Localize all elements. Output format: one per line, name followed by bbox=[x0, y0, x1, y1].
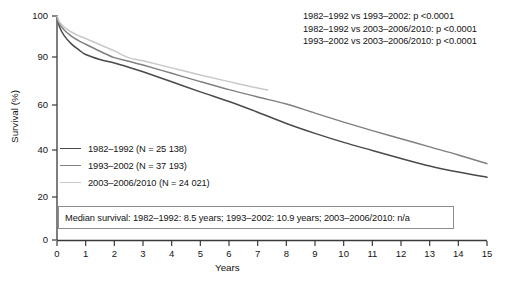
x-tick-label: 5 bbox=[190, 248, 210, 259]
y-tick-label: 90 bbox=[18, 51, 48, 62]
x-tick-label: 4 bbox=[162, 248, 182, 259]
p-value-annotations: 1982–1992 vs 1993–2002: p <0.0001 1982–1… bbox=[303, 10, 477, 48]
x-tick-label: 1 bbox=[76, 248, 96, 259]
y-tick-label: 20 bbox=[18, 191, 48, 202]
x-tick-label: 8 bbox=[276, 248, 296, 259]
x-tick-label: 7 bbox=[248, 248, 268, 259]
x-tick-label: 12 bbox=[391, 248, 411, 259]
legend-swatch-2003-2010 bbox=[60, 182, 81, 183]
x-tick-label: 11 bbox=[362, 248, 382, 259]
x-axis-label: Years bbox=[215, 262, 240, 273]
legend-label: 2003–2006/2010 (N = 24 021) bbox=[88, 178, 210, 188]
y-tick-label: 40 bbox=[18, 144, 48, 155]
x-tick-label: 13 bbox=[420, 248, 440, 259]
y-tick-label: 100 bbox=[18, 10, 48, 21]
y-tick-marks bbox=[52, 16, 57, 240]
chart-legend: 1982–1992 (N = 25 138) 1993–2002 (N = 37… bbox=[60, 140, 210, 191]
legend-label: 1982–1992 (N = 25 138) bbox=[88, 144, 187, 154]
median-survival-text: Median survival: 1982–1992: 8.5 years; 1… bbox=[59, 213, 410, 223]
legend-item: 1993–2002 (N = 37 193) bbox=[60, 157, 210, 174]
legend-item: 2003–2006/2010 (N = 24 021) bbox=[60, 174, 210, 191]
x-tick-label: 3 bbox=[133, 248, 153, 259]
p-value-line: 1982–1992 vs 1993–2002: p <0.0001 bbox=[303, 10, 477, 23]
legend-item: 1982–1992 (N = 25 138) bbox=[60, 140, 210, 157]
p-value-line: 1993–2002 vs 2003–2006/2010: p <0.0001 bbox=[303, 35, 477, 48]
x-tick-label: 6 bbox=[219, 248, 239, 259]
x-tick-label: 14 bbox=[448, 248, 468, 259]
y-tick-label: 0 bbox=[18, 234, 48, 245]
x-tick-label: 0 bbox=[47, 248, 67, 259]
x-tick-marks bbox=[57, 241, 487, 246]
y-tick-label: 60 bbox=[18, 99, 48, 110]
p-value-line: 1982–1992 vs 2003–2006/2010: p <0.0001 bbox=[303, 23, 477, 36]
y-axis-label: Survival (%) bbox=[9, 82, 20, 152]
median-survival-box: Median survival: 1982–1992: 8.5 years; 1… bbox=[58, 206, 454, 229]
legend-swatch-1993-2002 bbox=[60, 165, 81, 166]
x-tick-label: 10 bbox=[334, 248, 354, 259]
x-tick-label: 15 bbox=[477, 248, 497, 259]
legend-label: 1993–2002 (N = 37 193) bbox=[88, 161, 187, 171]
x-tick-label: 2 bbox=[104, 248, 124, 259]
legend-swatch-1982-1992 bbox=[60, 148, 81, 149]
x-tick-label: 9 bbox=[305, 248, 325, 259]
